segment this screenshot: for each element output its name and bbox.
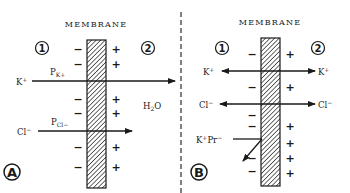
svg-text:A: A	[7, 165, 17, 180]
svg-text:−: −	[247, 120, 256, 133]
svg-text:2: 2	[315, 43, 322, 54]
positive-charges-a: + + + + + +	[111, 43, 120, 174]
membrane-potential-diagram: MEMBRANE 1 2 − − − − − − + + + + + +	[0, 0, 350, 193]
cl-ion-label: Cl−	[17, 126, 31, 137]
membrane-a	[87, 40, 106, 188]
cl-left-label: Cl−	[199, 99, 213, 110]
k-ion-label: K+	[16, 76, 27, 87]
membrane-b	[261, 38, 280, 186]
k-permeability-label: PK+	[50, 67, 65, 78]
k-left-label: K+	[203, 66, 214, 77]
svg-text:−: −	[247, 81, 256, 94]
svg-text:2: 2	[145, 43, 152, 54]
cl-right-label: Cl−	[318, 99, 332, 110]
panel-b: MEMBRANE 1 2 − − − − − − + + + + + +	[191, 18, 332, 186]
compartment-1-b: 1	[216, 42, 229, 55]
svg-text:1: 1	[219, 43, 226, 54]
compartment-2-b: 2	[312, 42, 325, 55]
water-label: H2O	[143, 101, 161, 112]
svg-text:−: −	[247, 165, 256, 178]
svg-text:−: −	[73, 141, 82, 154]
svg-text:+: +	[285, 167, 294, 180]
svg-text:+: +	[285, 81, 294, 94]
svg-text:−: −	[73, 93, 82, 106]
panel-label-b: B	[191, 164, 207, 180]
kpr-label: K+Pr−	[196, 134, 222, 145]
negative-charges-a: − − − − − −	[73, 43, 82, 174]
svg-text:+: +	[111, 141, 120, 154]
panel-a: MEMBRANE 1 2 − − − − − − + + + + + +	[4, 20, 175, 188]
svg-text:+: +	[285, 120, 294, 133]
svg-text:−: −	[73, 161, 82, 174]
positive-charges-b: + + + + + +	[285, 48, 294, 180]
svg-text:−: −	[73, 58, 82, 71]
compartment-1-a: 1	[36, 42, 49, 55]
svg-text:+: +	[111, 43, 120, 56]
membrane-title-a: MEMBRANE	[65, 20, 127, 29]
svg-text:−: −	[247, 48, 256, 61]
svg-text:+: +	[111, 161, 120, 174]
svg-text:−: −	[73, 107, 82, 120]
svg-text:+: +	[111, 93, 120, 106]
svg-text:+: +	[285, 137, 294, 150]
cl-permeability-label: PCl−	[51, 117, 68, 128]
compartment-2-a: 2	[142, 42, 155, 55]
membrane-title-b: MEMBRANE	[239, 18, 301, 27]
svg-text:+: +	[111, 107, 120, 120]
cl-flux-arrow-a: Cl− PCl−	[17, 117, 132, 137]
svg-text:1: 1	[39, 43, 46, 54]
k-right-label: K+	[318, 66, 329, 77]
svg-text:+: +	[111, 58, 120, 71]
svg-text:+: +	[285, 48, 294, 61]
negative-charges-b: − − − − − −	[247, 48, 256, 178]
svg-text:−: −	[73, 43, 82, 56]
panel-label-a: A	[4, 164, 20, 180]
svg-text:B: B	[194, 165, 204, 180]
svg-text:+: +	[285, 152, 294, 165]
